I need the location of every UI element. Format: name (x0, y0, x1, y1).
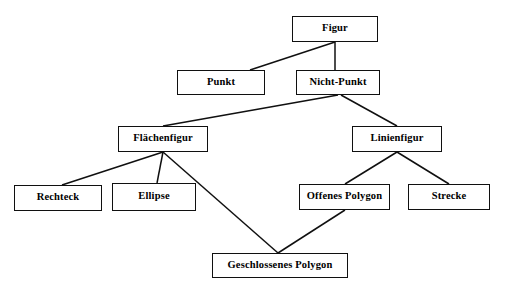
node-rechteck[interactable]: Rechteck (14, 185, 102, 211)
node-label-geschlossenes_polygon: Geschlossenes Polygon (228, 260, 333, 272)
node-linienfigur[interactable]: Linienfigur (352, 126, 442, 152)
edge-linienfigur-to-strecke (397, 152, 449, 184)
node-offenes_polygon[interactable]: Offenes Polygon (299, 184, 390, 210)
node-strecke[interactable]: Strecke (408, 184, 490, 210)
node-label-flaechenfigur: Flächenfigur (133, 133, 193, 145)
node-label-punkt: Punkt (207, 77, 235, 89)
node-label-rechteck: Rechteck (37, 192, 80, 204)
edge-figur-to-punkt (250, 42, 335, 70)
node-geschlossenes_polygon[interactable]: Geschlossenes Polygon (212, 253, 348, 278)
node-label-figur: Figur (322, 23, 348, 35)
node-label-offenes_polygon: Offenes Polygon (307, 191, 382, 203)
edge-nicht_punkt-to-linienfigur (341, 95, 397, 126)
edge-nicht_punkt-to-flaechenfigur (163, 95, 338, 126)
edge-offenes_polygon-to-geschlossenes_polygon (278, 210, 345, 253)
edge-flaechenfigur-to-ellipse (157, 152, 163, 183)
node-label-ellipse: Ellipse (138, 191, 169, 203)
node-figur[interactable]: Figur (292, 16, 378, 42)
node-ellipse[interactable]: Ellipse (112, 183, 196, 211)
node-nicht_punkt[interactable]: Nicht-Punkt (296, 70, 380, 95)
edge-flaechenfigur-to-rechteck (62, 152, 163, 185)
node-label-nicht_punkt: Nicht-Punkt (309, 77, 366, 89)
node-punkt[interactable]: Punkt (177, 70, 265, 95)
node-label-strecke: Strecke (432, 191, 467, 203)
node-label-linienfigur: Linienfigur (371, 133, 424, 145)
edge-linienfigur-to-offenes_polygon (345, 152, 397, 184)
figur-hierarchy-diagram: FigurPunktNicht-PunktFlächenfigurLinienf… (0, 0, 509, 289)
node-flaechenfigur[interactable]: Flächenfigur (118, 126, 208, 152)
